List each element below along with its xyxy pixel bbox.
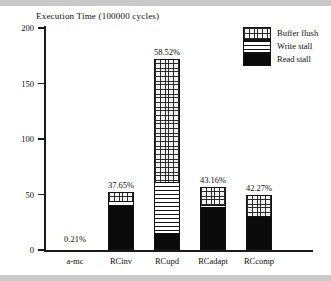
y-tick-label: 150: [6, 79, 34, 89]
legend-label-read-stall: Read stall: [277, 54, 311, 64]
bar-stack: [201, 187, 225, 249]
bar-segment-read-stall: [155, 233, 179, 249]
x-axis-line: [44, 250, 313, 252]
bar-rcinv: [108, 192, 134, 250]
y-tick-mark: [38, 194, 45, 195]
x-tick-label-rcinv: RCinv: [95, 256, 147, 266]
bar-value-label: 37.65%: [99, 180, 143, 190]
bar-segment-read-stall: [247, 217, 271, 249]
bar-segment-read-stall: [109, 206, 133, 249]
bar-segment-buffer-flush: [155, 59, 179, 182]
y-tick-label-text: 200: [6, 23, 34, 33]
y-tick-mark: [38, 138, 45, 139]
bar-stack: [109, 192, 133, 249]
plot-area: Execution Time (100000 cycles) 200150100…: [0, 0, 331, 281]
legend-label-buffer-flush: Buffer flush: [277, 28, 318, 38]
bar-stack: [155, 59, 179, 249]
y-tick-label-text: 100: [6, 134, 34, 144]
y-tick-mark: [38, 27, 45, 28]
y-tick-label: 100: [6, 134, 34, 144]
legend-swatch-write-stall: [243, 40, 271, 53]
bar-segment-buffer-flush: [247, 195, 271, 216]
legend-swatch-read-stall: [243, 53, 271, 66]
bar-rccomp: [246, 195, 272, 251]
x-tick-label-a-mc: a-mc: [49, 256, 101, 266]
y-tick-label-text: 50: [6, 190, 34, 200]
y-tick-mark: [38, 249, 45, 250]
bar-rcadapt: [200, 187, 226, 250]
x-tick-label-rcadapt: RCadapt: [187, 256, 239, 266]
bar-segment-read-stall: [201, 207, 225, 249]
bar-value-label: 43.16%: [191, 175, 235, 185]
y-tick-label-text: 0: [6, 245, 34, 255]
y-tick-mark: [38, 83, 45, 84]
bar-segment-write-stall: [155, 182, 179, 233]
bar-segment-buffer-flush: [201, 187, 225, 205]
bar-segment-buffer-flush: [109, 192, 133, 201]
bar-stack: [247, 195, 271, 250]
y-tick-label: 0: [6, 245, 34, 255]
y-tick-label: 200: [6, 23, 34, 33]
bar-value-label: 42.27%: [237, 183, 281, 193]
bar-rcupd: [154, 59, 180, 250]
y-tick-label-text: 150: [6, 79, 34, 89]
bar-value-label: 58.52%: [145, 47, 189, 57]
chart-root: Execution Time (100000 cycles) 200150100…: [0, 0, 331, 281]
legend-swatch-buffer-flush: [243, 27, 271, 40]
legend-label-write-stall: Write stall: [277, 41, 312, 51]
y-tick-label: 50: [6, 190, 34, 200]
x-tick-label-rcupd: RCupd: [141, 256, 193, 266]
x-tick-label-rccomp: RCcomp: [233, 256, 285, 266]
bar-value-label: 0.21%: [53, 234, 97, 244]
chart-title: Execution Time (100000 cycles): [36, 11, 159, 21]
